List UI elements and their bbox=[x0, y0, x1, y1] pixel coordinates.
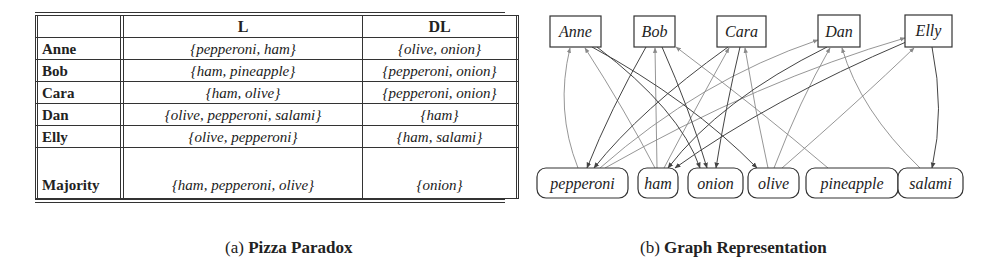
caption-a-prefix: (a) bbox=[225, 238, 244, 257]
svg-text:Bob: Bob bbox=[642, 23, 668, 40]
svg-text:olive: olive bbox=[758, 175, 789, 192]
svg-text:ham: ham bbox=[644, 175, 672, 192]
row-dislikes: {ham, salami} bbox=[363, 126, 517, 148]
table-row: Elly {olive, pepperoni} {ham, salami} bbox=[36, 126, 519, 148]
row-name: Majority bbox=[38, 148, 121, 199]
table-bottom-rule bbox=[35, 199, 505, 200]
edge-pineapple-bob bbox=[676, 47, 828, 168]
edge-pepperoni-anne bbox=[564, 48, 578, 168]
table-bottom-rule-2 bbox=[35, 202, 505, 203]
header-l: L bbox=[124, 16, 363, 38]
node-elly: Elly bbox=[905, 15, 952, 47]
row-dislikes: {pepperoni, onion} bbox=[363, 82, 517, 104]
caption-a-title: Pizza Paradox bbox=[248, 238, 352, 257]
svg-text:Elly: Elly bbox=[915, 22, 943, 40]
edge-salami-dan bbox=[842, 48, 920, 168]
food-nodes: pepperoni ham onion olive pineapple sala… bbox=[537, 168, 963, 198]
svg-text:onion: onion bbox=[697, 175, 733, 192]
node-anne: Anne bbox=[550, 16, 601, 47]
svg-text:pepperoni: pepperoni bbox=[549, 175, 614, 193]
row-likes: {pepperoni, ham} bbox=[124, 38, 363, 60]
caption-b: (b) Graph Representation bbox=[640, 238, 827, 258]
header-dl: DL bbox=[363, 16, 517, 38]
edge-ham-bob bbox=[655, 48, 657, 168]
row-dislikes: {ham} bbox=[363, 104, 517, 126]
header-empty bbox=[38, 16, 121, 38]
node-bob: Bob bbox=[634, 16, 675, 47]
table-row: Bob {ham, pineapple} {pepperoni, onion} bbox=[36, 60, 519, 82]
caption-a: (a) Pizza Paradox bbox=[225, 238, 352, 258]
row-name: Dan bbox=[38, 104, 121, 126]
row-likes: {ham, olive} bbox=[124, 82, 363, 104]
row-name: Elly bbox=[38, 126, 121, 148]
node-onion: onion bbox=[688, 168, 743, 198]
edge-pepperoni-dan bbox=[600, 40, 818, 168]
row-likes: {olive, pepperoni, salami} bbox=[124, 104, 363, 126]
caption-b-title: Graph Representation bbox=[664, 238, 827, 257]
row-dislikes: {onion} bbox=[363, 148, 517, 199]
likes-edges bbox=[564, 38, 920, 168]
row-likes: {ham, pineapple} bbox=[124, 60, 363, 82]
edge-elly-salami bbox=[932, 47, 939, 168]
node-pepperoni: pepperoni bbox=[537, 168, 628, 198]
svg-text:salami: salami bbox=[909, 175, 952, 192]
node-salami: salami bbox=[898, 168, 963, 198]
row-likes: {olive, pepperoni} bbox=[124, 126, 363, 148]
table-top-rule bbox=[35, 12, 505, 13]
svg-text:Anne: Anne bbox=[558, 23, 592, 40]
node-ham: ham bbox=[638, 168, 678, 198]
caption-b-prefix: (b) bbox=[640, 238, 660, 257]
svg-text:pineapple: pineapple bbox=[819, 175, 883, 193]
row-dislikes: {olive, onion} bbox=[363, 38, 517, 60]
pizza-paradox-table: L DL Anne {pepperoni, ham} {olive, onion… bbox=[35, 15, 519, 199]
node-cara: Cara bbox=[717, 16, 766, 47]
svg-text:Cara: Cara bbox=[725, 23, 758, 40]
node-olive: olive bbox=[748, 168, 799, 198]
node-dan: Dan bbox=[818, 15, 860, 47]
row-dislikes: {pepperoni, onion} bbox=[363, 60, 517, 82]
table-row: Cara {ham, olive} {pepperoni, onion} bbox=[36, 82, 519, 104]
preference-graph: Anne Bob Cara Dan Elly pepperoni ham bbox=[525, 0, 990, 225]
row-name: Anne bbox=[38, 38, 121, 60]
row-name: Bob bbox=[38, 60, 121, 82]
table-row-majority: Majority {ham, pepperoni, olive} {onion} bbox=[36, 148, 519, 199]
table-row: Anne {pepperoni, ham} {olive, onion} bbox=[36, 38, 519, 60]
edge-anne-onion bbox=[597, 47, 700, 168]
svg-text:Dan: Dan bbox=[824, 23, 853, 40]
node-pineapple: pineapple bbox=[806, 168, 898, 198]
edge-olive-cara bbox=[745, 48, 768, 168]
row-name: Cara bbox=[38, 82, 121, 104]
table-row: Dan {olive, pepperoni, salami} {ham} bbox=[36, 104, 519, 126]
row-likes: {ham, pepperoni, olive} bbox=[124, 148, 363, 199]
edge-anne-olive bbox=[592, 47, 757, 168]
table-header-row: L DL bbox=[36, 16, 519, 38]
